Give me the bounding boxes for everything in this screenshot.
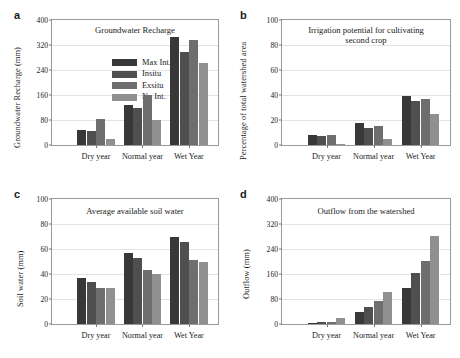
bar [170, 237, 179, 325]
panel-c: c Soil water (mm) Average available soil… [0, 179, 230, 358]
x-axis-tick-mark [96, 145, 97, 148]
bar-group [355, 20, 393, 145]
bar [152, 120, 161, 145]
bar [106, 288, 115, 324]
y-axis-label-a: Groundwater Recharge (mm) [13, 47, 22, 148]
x-axis-tick-label: Wet Year [174, 331, 204, 340]
bar [336, 144, 345, 145]
y-axis-tick-label: 240 [267, 245, 278, 254]
bar [364, 307, 373, 324]
bar [421, 261, 430, 324]
bar-group [77, 199, 115, 324]
x-axis-tick-label: Dry year [82, 152, 111, 161]
y-axis-tick-label: 20 [40, 295, 48, 304]
bar [124, 105, 133, 145]
bar-group [308, 20, 346, 145]
bar-group [77, 20, 115, 145]
bar [308, 323, 317, 324]
bar [327, 322, 336, 325]
x-axis-tick-mark [374, 324, 375, 327]
bar [96, 119, 105, 145]
bar-group [124, 20, 162, 145]
bar-group [170, 199, 208, 324]
plot-area-a: Groundwater Recharge 080160240320400 Max… [51, 19, 219, 146]
y-axis-tick-label: 0 [44, 141, 48, 150]
bar [124, 253, 133, 324]
x-axis-tick-label: Normal year [353, 331, 394, 340]
plot-area-b: Irrigation potential for cultivating sec… [281, 19, 451, 146]
bar [402, 288, 411, 324]
bar [189, 40, 198, 145]
figure-four-panel-bar-charts: a Groundwater Recharge (mm) Groundwater … [0, 0, 460, 358]
x-axis-tick-mark [142, 145, 143, 148]
bar [364, 128, 373, 146]
bar-group [124, 199, 162, 324]
panel-letter-c: c [14, 189, 20, 200]
x-axis-tick-mark [189, 145, 190, 148]
bar [87, 282, 96, 325]
bar [317, 322, 326, 324]
bar-group [308, 199, 346, 324]
y-axis-tick-label: 80 [270, 295, 278, 304]
bar [308, 135, 317, 145]
y-axis-label-d: Outflow (mm) [242, 249, 251, 299]
y-axis-tick-label: 80 [40, 220, 48, 229]
x-axis-tick-mark [327, 324, 328, 327]
bar [374, 301, 383, 324]
y-axis-tick-label: 60 [40, 245, 48, 254]
bar [199, 63, 208, 145]
bars-c: Dry yearNormal yearWet Year [52, 199, 218, 324]
y-axis-tick-label: 20 [270, 116, 278, 125]
y-axis-tick-label: 160 [267, 270, 278, 279]
x-axis-tick-mark [374, 145, 375, 148]
y-axis-tick-label: 320 [267, 220, 278, 229]
bar-group [402, 199, 440, 324]
bars-a: Dry yearNormal yearWet Year [52, 20, 218, 145]
x-axis-tick-label: Normal year [122, 331, 163, 340]
bar [143, 270, 152, 324]
x-axis-tick-mark [189, 324, 190, 327]
panel-letter-d: d [240, 189, 247, 200]
x-axis-tick-label: Wet Year [174, 152, 204, 161]
x-axis-tick-mark [142, 324, 143, 327]
bar [170, 37, 179, 145]
y-axis-tick-label: 0 [44, 320, 48, 329]
bars-b: Dry yearNormal yearWet Year [282, 20, 450, 145]
panel-letter-a: a [14, 10, 20, 21]
y-axis-tick-label: 320 [37, 41, 48, 50]
y-axis-tick-label: 40 [40, 270, 48, 279]
panel-letter-b: b [240, 10, 247, 21]
plot-area-d: Outflow from the watershed 0801602403204… [281, 198, 451, 325]
bar [106, 139, 115, 145]
x-axis-tick-mark [96, 324, 97, 327]
bar [411, 101, 420, 145]
bar [189, 260, 198, 324]
bar [77, 130, 86, 145]
bar [152, 274, 161, 324]
bar [336, 318, 345, 324]
x-axis-tick-mark [421, 324, 422, 327]
bar [402, 96, 411, 145]
plot-area-c: Average available soil water 02040608010… [51, 198, 219, 325]
bar [133, 258, 142, 324]
y-axis-tick-label: 0 [274, 320, 278, 329]
bar [383, 292, 392, 324]
panel-d: d Outflow (mm) Outflow from the watershe… [230, 179, 460, 358]
bar [411, 273, 420, 324]
bar [355, 312, 364, 325]
bar-group [355, 199, 393, 324]
bars-d: Dry yearNormal yearWet Year [282, 199, 450, 324]
panel-b: b Percentage of total watershed area Irr… [230, 0, 460, 179]
panel-a: a Groundwater Recharge (mm) Groundwater … [0, 0, 230, 179]
bar [180, 242, 189, 325]
bar [421, 99, 430, 145]
bar [77, 278, 86, 324]
bar [199, 262, 208, 325]
bar [317, 136, 326, 145]
y-axis-tick-label: 80 [40, 116, 48, 125]
x-axis-tick-label: Dry year [82, 331, 111, 340]
y-axis-tick-label: 60 [270, 66, 278, 75]
x-axis-tick-label: Wet Year [406, 152, 436, 161]
x-axis-tick-mark [327, 145, 328, 148]
bar [133, 108, 142, 145]
